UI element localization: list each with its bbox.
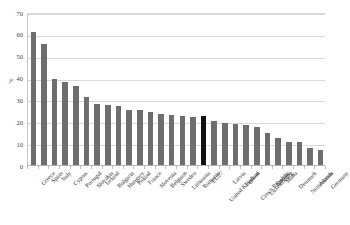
bar (275, 138, 281, 166)
x-tickmark (282, 166, 283, 169)
x-tickmark (304, 166, 305, 169)
bar (307, 148, 313, 166)
bar (169, 115, 175, 166)
bar (52, 79, 58, 166)
bar (62, 82, 68, 166)
bar (41, 44, 47, 166)
y-tick-label: 40 (17, 75, 24, 82)
x-tickmark (208, 166, 209, 169)
bar (233, 124, 239, 166)
y-axis-tick-labels: 010203040506070 (0, 0, 26, 225)
bar (254, 127, 260, 166)
y-tick-label: 70 (17, 10, 24, 17)
bar (94, 104, 100, 166)
x-tickmark (251, 166, 252, 169)
x-tickmark (48, 166, 49, 169)
y-tick-label: 30 (17, 97, 24, 104)
y-tick-label: 50 (17, 53, 24, 60)
x-axis-category-labels: GreeceSpainItalyCyprusPortugalSlovakiaIr… (27, 170, 335, 225)
bar (190, 117, 196, 166)
bar (201, 116, 207, 166)
x-tickmark (133, 166, 134, 169)
x-tickmark (293, 166, 294, 169)
x-tickmark (144, 166, 145, 169)
bar (211, 121, 217, 166)
x-tickmark (112, 166, 113, 169)
bar (148, 112, 154, 166)
x-tickmark (80, 166, 81, 169)
bar (31, 32, 37, 166)
x-tickmark (165, 166, 166, 169)
bar (105, 105, 111, 166)
x-tickmark (27, 166, 28, 169)
x-tickmark (91, 166, 92, 169)
x-tickmark (102, 166, 103, 169)
x-tickmark (70, 166, 71, 169)
x-tickmark (219, 166, 220, 169)
x-tickmark (272, 166, 273, 169)
bars-layer (28, 14, 325, 166)
x-tickmark (187, 166, 188, 169)
x-tickmark (261, 166, 262, 169)
y-tick-label: 10 (17, 141, 24, 148)
x-tickmark (38, 166, 39, 169)
bar (243, 125, 249, 166)
x-tickmark (325, 166, 326, 169)
bar (126, 110, 132, 166)
bar (84, 97, 90, 166)
bar (297, 142, 303, 166)
y-tick-label: 60 (17, 31, 24, 38)
x-tickmark (176, 166, 177, 169)
bar (265, 133, 271, 166)
x-tickmark (59, 166, 60, 169)
y-tick-label: 0 (20, 163, 23, 170)
bar (73, 86, 79, 166)
bar (158, 114, 164, 166)
bar (180, 116, 186, 166)
x-tickmark (197, 166, 198, 169)
bar (222, 123, 228, 166)
bar (286, 142, 292, 166)
x-tickmark (229, 166, 230, 169)
bar (318, 150, 324, 166)
bar (137, 110, 143, 166)
plot-area (27, 13, 325, 166)
x-tickmark (155, 166, 156, 169)
x-tick-label: EU27 (210, 170, 224, 184)
bar (116, 106, 122, 166)
x-tickmark (314, 166, 315, 169)
x-tickmark (240, 166, 241, 169)
x-tickmark (123, 166, 124, 169)
y-tick-label: 20 (17, 119, 24, 126)
